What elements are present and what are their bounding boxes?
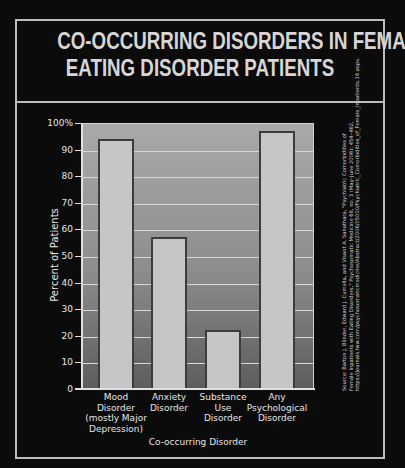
bar — [205, 330, 241, 389]
y-tick-label: 20 — [33, 331, 73, 341]
source-citation: Source: Barton J. Blinder, Edward J. Cum… — [341, 121, 361, 391]
bar — [151, 237, 187, 389]
title-divider — [15, 101, 385, 103]
chart-title-line-2: EATING DISORDER PATIENTS — [57, 54, 342, 81]
y-axis-label: Percent of Patients — [49, 208, 60, 302]
x-axis-label: Co-occurring Disorder — [82, 437, 314, 447]
y-tick-label: 10 — [33, 357, 73, 367]
bar — [259, 131, 295, 389]
y-tick-label: 100% — [33, 118, 73, 128]
y-tick-label: 80 — [33, 171, 73, 181]
y-tick-label: 70 — [33, 198, 73, 208]
chart-title-line-1: CO-OCCURRING DISORDERS IN FEMALE — [57, 27, 342, 54]
y-tick-label: 90 — [33, 145, 73, 155]
chart-title: CO-OCCURRING DISORDERS IN FEMALE EATING … — [57, 27, 342, 81]
y-axis-line — [81, 123, 83, 390]
bar — [98, 139, 134, 389]
y-tick-label: 0 — [33, 384, 73, 394]
category-label: AnyPsychologicalDisorder — [242, 392, 312, 424]
x-axis-line — [75, 388, 315, 390]
y-tick-label: 30 — [33, 304, 73, 314]
